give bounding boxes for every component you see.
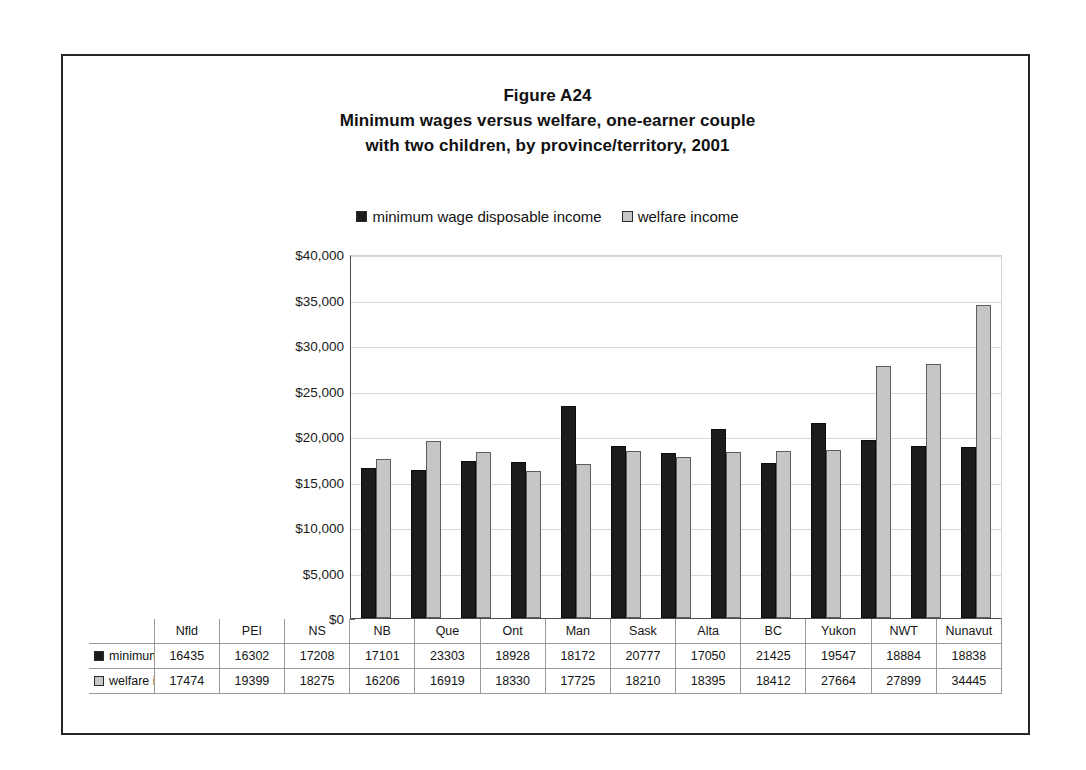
bar-group-que (551, 256, 601, 618)
bar-pei-series-2 (426, 441, 441, 618)
bar-group-nwt (901, 256, 951, 618)
table-column-header: Yukon (806, 619, 871, 644)
figure-number: Figure A24 (63, 83, 1032, 108)
table-column-header: Alta (676, 619, 741, 644)
table-header-row: NfldPEINSNBQueOntManSaskAltaBCYukonNWTNu… (89, 619, 1002, 644)
table-row: minimum wage disposable income1643516302… (89, 644, 1002, 669)
bar-group-bc (801, 256, 851, 618)
figure-title-block: Figure A24 Minimum wages versus welfare,… (63, 83, 1032, 158)
y-axis-tick-label: $35,000 (295, 293, 344, 308)
table-cell-value: 17208 (285, 644, 350, 669)
table-column-header: Que (415, 619, 480, 644)
bar-alta-series-1 (761, 463, 776, 618)
bar-yukon-series-1 (861, 440, 876, 618)
table-cell-value: 16302 (219, 644, 284, 669)
y-axis-tick-label: $20,000 (295, 430, 344, 445)
table-cell-value: 23303 (415, 644, 480, 669)
bar-group-nfld (351, 256, 401, 618)
bar-ont-series-1 (611, 446, 626, 618)
table-cell-value: 16919 (415, 669, 480, 694)
table-cell-value: 18210 (610, 669, 675, 694)
bar-group-nunavut (951, 256, 1001, 618)
figure-title-line-2: with two children, by province/territory… (63, 133, 1032, 158)
table-column-header: Nunavut (936, 619, 1001, 644)
chart-legend: minimum wage disposable income welfare i… (63, 208, 1032, 225)
table-cell-value: 17050 (676, 644, 741, 669)
bar-nwt-series-2 (926, 364, 941, 618)
table-column-header: NWT (871, 619, 936, 644)
table-cell-value: 18330 (480, 669, 545, 694)
bar-nfld-series-1 (361, 468, 376, 618)
table-column-header: NS (285, 619, 350, 644)
bar-group-yukon (851, 256, 901, 618)
bar-bc-series-1 (811, 423, 826, 618)
table-cell-value: 27899 (871, 669, 936, 694)
bar-man-series-1 (661, 453, 676, 618)
table-row-label: welfare income (89, 669, 154, 694)
legend-label-minimum-wage: minimum wage disposable income (372, 208, 601, 225)
bar-group-ns (451, 256, 501, 618)
bar-group-man (651, 256, 701, 618)
bar-que-series-1 (561, 406, 576, 618)
bar-nwt-series-1 (911, 446, 926, 618)
bar-nb-series-2 (526, 471, 541, 618)
table-cell-value: 18884 (871, 644, 936, 669)
bar-group-ont (601, 256, 651, 618)
plot-area-wrapper: $0$5,000$10,000$15,000$20,000$25,000$30,… (288, 255, 1002, 619)
table-cell-value: 17474 (154, 669, 219, 694)
table-column-header: Sask (610, 619, 675, 644)
table-cell-value: 19399 (219, 669, 284, 694)
table-column-header: PEI (219, 619, 284, 644)
dark-square-icon (94, 651, 104, 661)
table-cell-value: 20777 (610, 644, 675, 669)
table-corner-cell (89, 619, 154, 644)
legend-entry-welfare: welfare income (622, 208, 739, 225)
bar-group-sask (701, 256, 751, 618)
table-column-header: Nfld (154, 619, 219, 644)
table-column-header: BC (741, 619, 806, 644)
table-column-header: NB (350, 619, 415, 644)
bar-pei-series-1 (411, 470, 426, 618)
bar-sask-series-2 (726, 452, 741, 618)
table-cell-value: 18395 (676, 669, 741, 694)
bar-group-alta (751, 256, 801, 618)
plot-area (350, 255, 1002, 619)
light-square-icon (622, 211, 633, 222)
table-cell-value: 18412 (741, 669, 806, 694)
table-cell-value: 27664 (806, 669, 871, 694)
y-axis-tick-label: $10,000 (295, 521, 344, 536)
data-table: NfldPEINSNBQueOntManSaskAltaBCYukonNWTNu… (89, 619, 1002, 694)
table-row-label-inner: minimum wage disposable income (94, 649, 152, 663)
bar-ont-series-2 (626, 451, 641, 618)
table-cell-value: 16435 (154, 644, 219, 669)
dark-square-icon (356, 211, 367, 222)
y-axis-tick-label: $15,000 (295, 475, 344, 490)
y-axis-labels: $0$5,000$10,000$15,000$20,000$25,000$30,… (288, 255, 350, 619)
bar-group-nb (501, 256, 551, 618)
table-cell-value: 19547 (806, 644, 871, 669)
bar-sask-series-1 (711, 429, 726, 618)
bar-que-series-2 (576, 464, 591, 618)
table-cell-value: 18172 (545, 644, 610, 669)
bar-man-series-2 (676, 457, 691, 618)
table-cell-value: 18838 (936, 644, 1001, 669)
y-axis-tick-label: $5,000 (303, 566, 344, 581)
light-square-icon (94, 676, 104, 686)
bar-ns-series-1 (461, 461, 476, 618)
bar-yukon-series-2 (876, 366, 891, 618)
table-row: welfare income17474193991827516206169191… (89, 669, 1002, 694)
y-axis-tick-label: $30,000 (295, 339, 344, 354)
y-axis-tick-label: $40,000 (295, 248, 344, 263)
bar-alta-series-2 (776, 451, 791, 618)
table-cell-value: 21425 (741, 644, 806, 669)
bar-ns-series-2 (476, 452, 491, 618)
table-row-label-text: welfare income (109, 674, 154, 688)
table-cell-value: 34445 (936, 669, 1001, 694)
bar-nfld-series-2 (376, 459, 391, 618)
table-cell-value: 17725 (545, 669, 610, 694)
bars-layer (351, 256, 1001, 618)
table-cell-value: 17101 (350, 644, 415, 669)
table-cell-value: 16206 (350, 669, 415, 694)
table-row-label-inner: welfare income (94, 674, 152, 688)
y-axis-tick-label: $25,000 (295, 384, 344, 399)
